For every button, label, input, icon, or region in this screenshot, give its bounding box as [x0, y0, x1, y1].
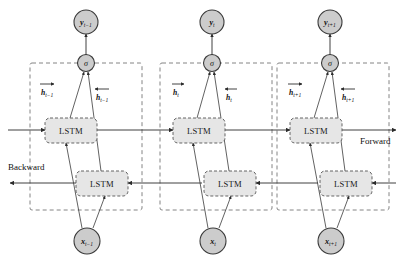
forward-hidden-label-t: ht [173, 88, 179, 98]
forward-lstm-label-t: LSTM [187, 126, 211, 136]
forward-lstm-label-t-minus-1: LSTM [59, 126, 83, 136]
backward-hidden-label-t-minus-1: ht−1 [96, 93, 109, 103]
diagram-canvas: LSTM LSTM yt−1 σ xt−1 ht−1 ht−1 LSTM LST… [0, 0, 403, 273]
forward-lstm-label-t-plus-1: LSTM [304, 126, 328, 136]
input-to-backward-lstm-t-minus-1 [93, 196, 105, 228]
backward-hidden-label-t: ht [226, 93, 232, 103]
backward-lstm-label-t-minus-1: LSTM [90, 179, 114, 189]
forward-hidden-to-sigma-t [197, 72, 210, 118]
backward-direction-label: Backward [8, 162, 45, 172]
input-to-backward-lstm-t [219, 196, 231, 228]
forward-hidden-label-t-minus-1: ht−1 [41, 88, 54, 98]
bilstm-diagram: LSTM LSTM yt−1 σ xt−1 ht−1 ht−1 LSTM LST… [0, 0, 403, 273]
backward-hidden-label-t-plus-1: ht+1 [342, 93, 355, 103]
forward-hidden-label-t-plus-1: ht+1 [289, 88, 302, 98]
forward-hidden-to-sigma-t-minus-1 [70, 72, 84, 118]
input-to-backward-lstm-t-plus-1 [337, 196, 349, 228]
backward-lstm-label-t: LSTM [218, 179, 242, 189]
forward-hidden-to-sigma-t-plus-1 [314, 72, 328, 118]
backward-lstm-label-t-plus-1: LSTM [334, 179, 358, 189]
forward-direction-label: Forward [360, 136, 391, 146]
